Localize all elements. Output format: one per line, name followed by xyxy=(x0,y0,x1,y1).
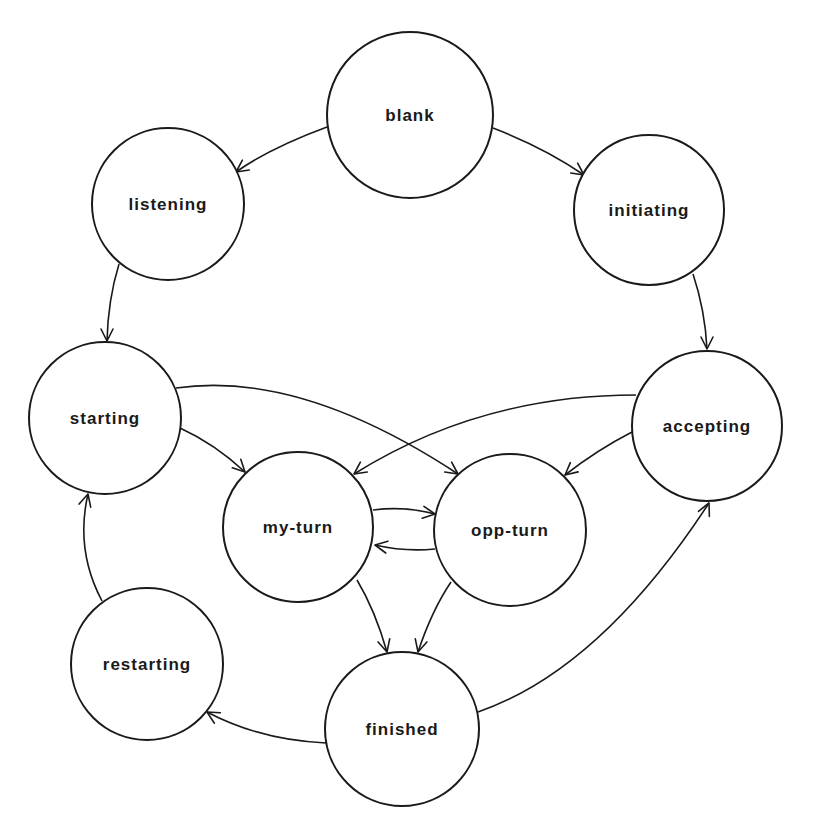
state-label: restarting xyxy=(103,655,191,674)
state-label: opp-turn xyxy=(471,521,549,540)
state-label: blank xyxy=(385,106,434,125)
edge-my-turn-to-finished xyxy=(357,580,393,654)
state-diagram: blanklisteninginitiatingstartingacceptin… xyxy=(0,0,814,840)
edge-line xyxy=(84,494,102,601)
edge-line xyxy=(418,582,451,652)
edge-starting-to-my-turn xyxy=(180,428,249,476)
state-label: accepting xyxy=(663,417,751,436)
state-node-initiating: initiating xyxy=(574,135,724,285)
state-label: starting xyxy=(70,409,140,428)
state-node-opp-turn: opp-turn xyxy=(434,454,586,606)
edge-finished-to-restarting xyxy=(204,707,326,743)
state-label: finished xyxy=(365,720,438,739)
state-label: my-turn xyxy=(263,518,333,537)
state-node-starting: starting xyxy=(29,342,181,494)
edge-line xyxy=(180,428,245,472)
edge-line xyxy=(493,128,584,175)
edge-blank-to-initiating xyxy=(493,128,587,180)
state-node-blank: blank xyxy=(327,32,493,198)
edge-line xyxy=(373,509,435,514)
edge-line xyxy=(693,274,707,349)
state-label: listening xyxy=(129,195,208,214)
edge-accepting-to-opp-turn xyxy=(561,432,632,480)
edge-line xyxy=(207,712,326,743)
edge-my-turn-to-opp-turn xyxy=(373,506,436,520)
edge-opp-turn-to-my-turn xyxy=(374,539,435,553)
edge-line xyxy=(565,432,632,475)
edge-line xyxy=(357,580,387,652)
edge-initiating-to-accepting xyxy=(693,274,713,349)
state-node-accepting: accepting xyxy=(632,351,782,501)
edge-line xyxy=(375,545,435,550)
edge-restarting-to-starting xyxy=(79,492,102,601)
state-node-finished: finished xyxy=(325,652,479,806)
state-node-my-turn: my-turn xyxy=(223,452,373,602)
edge-blank-to-listening xyxy=(233,127,327,177)
edge-listening-to-starting xyxy=(101,264,119,341)
state-node-restarting: restarting xyxy=(71,588,223,740)
edge-opp-turn-to-finished xyxy=(412,582,451,654)
state-nodes: blanklisteninginitiatingstartingacceptin… xyxy=(29,32,782,806)
state-node-listening: listening xyxy=(92,128,244,280)
edge-line xyxy=(236,127,327,172)
state-label: initiating xyxy=(609,201,690,220)
